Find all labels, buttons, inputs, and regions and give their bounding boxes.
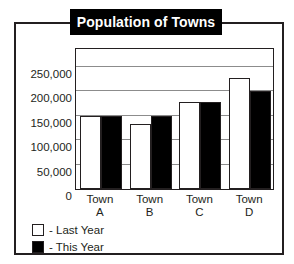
chart-title: Population of Towns	[70, 9, 222, 35]
legend-label: - Last Year	[49, 224, 104, 236]
x-axis-category: TownC	[175, 193, 225, 219]
chart-figure: Population of Towns 050,000100,000150,00…	[0, 0, 294, 264]
x-axis: TownATownBTownCTownD	[75, 193, 274, 225]
x-axis-tick-label: Town	[75, 193, 125, 206]
y-axis: 050,000100,000150,000200,000250,000	[16, 48, 72, 190]
bar-group	[229, 49, 271, 189]
bar-group	[130, 49, 172, 189]
x-axis-category: TownA	[75, 193, 125, 219]
x-axis-tick-label: D	[224, 206, 274, 219]
plot-area	[75, 48, 274, 190]
bar	[200, 102, 221, 189]
x-axis-tick-label: Town	[125, 193, 175, 206]
bar	[151, 116, 172, 189]
x-axis-tick-label: Town	[175, 193, 225, 206]
bar	[250, 91, 271, 189]
chart-legend: - Last Year- This Year	[32, 222, 162, 256]
white-square-icon	[32, 224, 44, 236]
bar	[101, 116, 122, 189]
x-axis-tick-label: A	[75, 206, 125, 219]
black-square-icon	[32, 241, 44, 253]
x-axis-tick-label: C	[175, 206, 225, 219]
y-axis-tick	[75, 139, 76, 140]
y-axis-tick	[75, 115, 76, 116]
x-axis-category: TownB	[125, 193, 175, 219]
y-axis-tick	[75, 164, 76, 165]
y-axis-tick	[75, 90, 76, 91]
x-axis-category: TownD	[224, 193, 274, 219]
x-axis-tick-label: B	[125, 206, 175, 219]
bar-group	[179, 49, 221, 189]
bar	[130, 124, 151, 189]
bar	[179, 102, 200, 189]
bar-group	[80, 49, 122, 189]
bar	[229, 78, 250, 189]
y-axis-tick	[75, 66, 76, 67]
legend-item: - This Year	[32, 239, 162, 254]
legend-item: - Last Year	[32, 222, 162, 237]
y-axis-tick	[75, 188, 76, 189]
x-axis-tick-label: Town	[224, 193, 274, 206]
bar	[80, 116, 101, 189]
legend-label: - This Year	[49, 241, 104, 253]
